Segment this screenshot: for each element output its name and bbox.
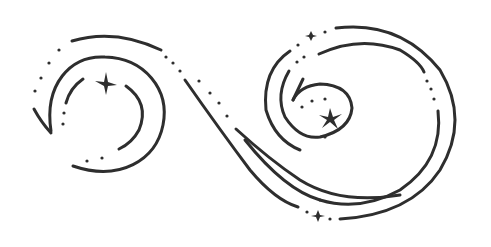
left-spiral bbox=[33, 36, 164, 171]
swirl-illustration: Decorative swirl with sparkles bbox=[0, 0, 491, 247]
sparkle-icon bbox=[305, 31, 317, 41]
sparkle-icon bbox=[319, 108, 342, 129]
sparkle-icon bbox=[95, 72, 117, 95]
swirl-drawing bbox=[0, 0, 491, 247]
sparkle-icon bbox=[311, 210, 325, 222]
s-connector bbox=[164, 55, 400, 207]
right-spiral bbox=[266, 27, 456, 222]
